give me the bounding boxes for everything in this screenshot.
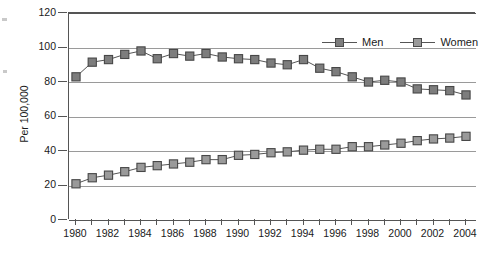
data-point-women [462, 132, 470, 140]
data-point-men [429, 86, 437, 94]
data-point-men [153, 55, 161, 63]
y-tick-mark [58, 150, 67, 151]
legend-marker-men [335, 38, 344, 47]
data-point-men [413, 85, 421, 93]
x-tick-mark [465, 219, 466, 225]
series-line-men [76, 51, 466, 95]
legend-item-men: Men [322, 37, 383, 48]
legend-label-women: Women [440, 37, 478, 48]
data-point-women [397, 139, 405, 147]
data-point-men [348, 73, 356, 81]
data-point-men [251, 55, 259, 63]
data-point-women [332, 145, 340, 153]
data-point-men [218, 53, 226, 61]
x-tick-mark [433, 219, 434, 225]
data-point-women [348, 143, 356, 151]
y-tick-label: 0 [22, 214, 56, 225]
data-point-women [104, 171, 112, 179]
x-tick-mark [400, 219, 401, 225]
data-point-men [364, 78, 372, 86]
x-tick-mark [416, 219, 417, 225]
data-point-men [397, 78, 405, 86]
legend-label-men: Men [362, 37, 383, 48]
legend-line-women-right [422, 42, 435, 43]
x-tick-mark [368, 219, 369, 225]
legend-line-men [322, 42, 335, 43]
data-point-women [218, 156, 226, 164]
x-tick-mark [75, 219, 76, 225]
data-point-men [316, 64, 324, 72]
data-point-men [104, 55, 112, 63]
series-line-women [76, 136, 466, 183]
x-tick-mark [286, 219, 287, 225]
data-point-women [299, 146, 307, 154]
scan-artifact [3, 70, 7, 73]
chart-container: Per 100,000 020406080100120 Men Women 19… [0, 0, 492, 258]
data-point-women [429, 135, 437, 143]
data-point-women [88, 174, 96, 182]
x-tick-mark [384, 219, 385, 225]
data-point-women [72, 180, 80, 188]
y-tick-mark [58, 47, 67, 48]
data-point-men [283, 61, 291, 69]
y-tick-label: 20 [22, 179, 56, 190]
data-point-women [137, 163, 145, 171]
data-point-women [283, 148, 291, 156]
data-point-men [121, 50, 129, 58]
legend-item-women: Women [400, 37, 478, 48]
y-axis-labels: 020406080100120 [22, 0, 56, 258]
x-tick-mark [173, 219, 174, 225]
x-axis-ticks [68, 219, 475, 226]
x-tick-mark [124, 219, 125, 225]
x-tick-mark [156, 219, 157, 225]
data-point-men [267, 59, 275, 67]
x-tick-mark [108, 219, 109, 225]
data-point-men [186, 52, 194, 60]
data-point-men [72, 73, 80, 81]
data-point-women [202, 156, 210, 164]
data-point-women [169, 160, 177, 168]
x-tick-mark [238, 219, 239, 225]
data-point-women [413, 137, 421, 145]
x-tick-label: 2004 [445, 228, 485, 239]
plot-area: Men Women [68, 12, 475, 219]
x-tick-mark [319, 219, 320, 225]
y-tick-mark [58, 81, 67, 82]
x-tick-mark [254, 219, 255, 225]
legend-line-women [400, 42, 413, 43]
x-tick-mark [270, 219, 271, 225]
data-point-men [88, 58, 96, 66]
y-axis-ticks [58, 0, 68, 258]
legend-line-men-right [344, 42, 357, 43]
data-point-women [153, 162, 161, 170]
x-axis-labels: 1980198219841986198819901992199419961998… [0, 228, 492, 244]
data-point-men [234, 55, 242, 63]
legend: Men Women [322, 35, 478, 50]
data-point-women [121, 168, 129, 176]
data-point-men [462, 91, 470, 99]
data-point-men [446, 87, 454, 95]
scan-artifact [2, 18, 7, 21]
data-point-women [234, 151, 242, 159]
x-tick-mark [449, 219, 450, 225]
y-tick-mark [58, 12, 67, 13]
y-tick-label: 60 [22, 110, 56, 121]
y-tick-label: 40 [22, 145, 56, 156]
data-point-men [299, 55, 307, 63]
x-tick-mark [140, 219, 141, 225]
data-point-women [186, 158, 194, 166]
x-tick-mark [205, 219, 206, 225]
y-tick-label: 120 [22, 7, 56, 18]
x-tick-mark [335, 219, 336, 225]
data-point-men [169, 49, 177, 57]
y-tick-mark [58, 116, 67, 117]
x-tick-mark [303, 219, 304, 225]
data-point-men [202, 49, 210, 57]
data-point-men [381, 76, 389, 84]
x-tick-mark [91, 219, 92, 225]
x-tick-mark [351, 219, 352, 225]
data-point-women [446, 134, 454, 142]
data-point-women [251, 150, 259, 158]
legend-marker-women [413, 38, 422, 47]
y-tick-mark [58, 219, 67, 220]
